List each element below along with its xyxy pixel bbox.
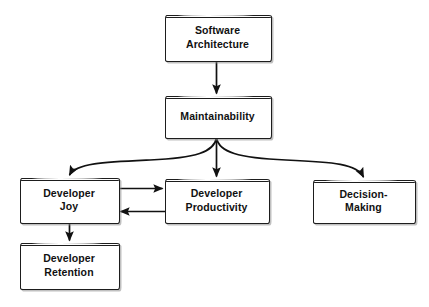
- node-label-decision-making: Decision- Making: [335, 188, 391, 215]
- node-label-maintainability: Maintainability: [176, 110, 258, 123]
- node-developer-joy[interactable]: Developer Joy: [20, 178, 118, 222]
- edge-maintainability-to-decision-making: [217, 138, 364, 177]
- node-label-developer-joy: Developer Joy: [39, 187, 99, 214]
- node-developer-productivity[interactable]: Developer Productivity: [165, 179, 268, 222]
- node-maintainability[interactable]: Maintainability: [165, 96, 270, 137]
- node-label-developer-retention: Developer Retention: [39, 252, 99, 279]
- node-software-architecture[interactable]: Software Architecture: [165, 15, 270, 60]
- node-label-software-architecture: Software Architecture: [182, 24, 253, 51]
- diagram-canvas: Software Architecture Maintainability De…: [0, 0, 429, 307]
- node-decision-making[interactable]: Decision- Making: [313, 180, 414, 222]
- node-label-developer-productivity: Developer Productivity: [182, 187, 252, 214]
- node-developer-retention[interactable]: Developer Retention: [20, 243, 118, 288]
- edge-maintainability-to-developer-joy: [70, 138, 217, 175]
